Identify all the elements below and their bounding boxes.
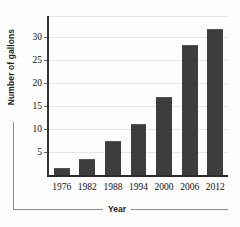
y-tick-mark xyxy=(44,152,47,153)
bar xyxy=(207,29,223,175)
y-tick-mark xyxy=(44,129,47,130)
y-tick-mark xyxy=(44,106,47,107)
x-tick-label: 1994 xyxy=(129,182,148,192)
x-tick-label: 1988 xyxy=(103,182,122,192)
bar-chart: Number of gallons Year 51015202530 19761… xyxy=(0,0,240,227)
y-tick-mark xyxy=(44,37,47,38)
bar xyxy=(54,168,70,175)
y-tick-mark xyxy=(44,60,47,61)
bar xyxy=(105,141,121,175)
y-tick-label: 25 xyxy=(33,55,43,65)
x-tick-label: 2006 xyxy=(180,182,199,192)
bar xyxy=(131,124,147,175)
x-tick-label: 2012 xyxy=(206,182,225,192)
x-axis-title: Year xyxy=(103,203,131,216)
x-tick-label: 2000 xyxy=(155,182,174,192)
plot-area: 51015202530 1976198219881994200020062012 xyxy=(47,16,228,176)
y-axis-title: Number of gallons xyxy=(4,12,18,122)
y-tick-label: 30 xyxy=(33,32,43,42)
x-axis-line xyxy=(47,175,228,177)
bar xyxy=(182,45,198,175)
y-tick-label: 5 xyxy=(37,147,42,157)
x-tick-label: 1976 xyxy=(52,182,71,192)
bar-series xyxy=(49,16,228,175)
y-tick-mark xyxy=(44,83,47,84)
y-tick-label: 15 xyxy=(33,101,43,111)
x-tick-label: 1982 xyxy=(78,182,97,192)
y-tick-label: 10 xyxy=(33,124,43,134)
bar xyxy=(79,159,95,175)
y-tick-label: 20 xyxy=(33,78,43,88)
bar xyxy=(156,97,172,175)
